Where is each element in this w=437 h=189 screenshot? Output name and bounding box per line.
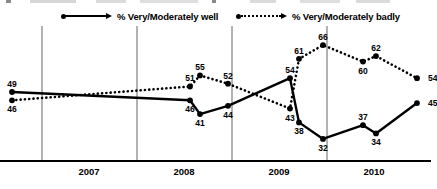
value-label: 49 <box>7 80 16 89</box>
data-point <box>296 56 302 62</box>
year-label-2007: 2007 <box>78 166 99 177</box>
legend-marker-dotted-line <box>235 11 287 22</box>
value-label: 51 <box>185 74 194 83</box>
legend-label-badly: % Very/Moderately badly <box>292 11 400 22</box>
data-point <box>9 97 15 103</box>
value-label: 60 <box>358 67 367 76</box>
legend-label-well: % Very/Moderately well <box>117 11 218 22</box>
value-label: 32 <box>318 144 327 153</box>
series-line-well <box>12 78 417 139</box>
x-axis-line <box>0 160 431 162</box>
legend-item-well: % Very/Moderately well <box>60 8 218 24</box>
value-label: 61 <box>294 47 303 56</box>
data-point <box>187 84 193 90</box>
value-label: 41 <box>195 119 204 128</box>
data-point <box>360 59 366 65</box>
data-point <box>373 131 379 137</box>
value-label: 66 <box>318 33 327 42</box>
value-label: 43 <box>285 114 294 123</box>
value-label: 62 <box>371 44 380 53</box>
data-point <box>225 103 231 109</box>
data-point <box>287 106 293 112</box>
value-label: 55 <box>195 63 204 72</box>
year-divider-lines <box>42 26 327 160</box>
value-label: 38 <box>294 127 303 136</box>
legend-item-badly: % Very/Moderately badly <box>235 8 400 24</box>
value-label: 46 <box>185 105 194 114</box>
data-point <box>296 119 302 125</box>
data-point <box>414 100 420 106</box>
data-point <box>320 42 326 48</box>
data-point <box>187 97 193 103</box>
cropped-title-artifact <box>0 0 431 4</box>
legend-marker-solid-line <box>60 11 112 22</box>
value-label: 37 <box>358 113 367 122</box>
value-label: 54 <box>428 74 437 83</box>
data-point <box>414 75 420 81</box>
year-label-2008: 2008 <box>173 166 194 177</box>
data-point <box>320 136 326 142</box>
plot-area <box>0 26 431 163</box>
x-axis-year-labels: 2007200820092010 <box>0 166 431 184</box>
value-label: 45 <box>428 99 437 108</box>
data-point <box>373 53 379 59</box>
data-point <box>197 111 203 117</box>
value-label: 44 <box>223 111 232 120</box>
series-layer <box>9 42 420 142</box>
data-point <box>360 122 366 128</box>
data-point <box>197 73 203 79</box>
year-label-2009: 2009 <box>268 166 289 177</box>
year-label-2010: 2010 <box>363 166 384 177</box>
chart-legend: % Very/Moderately well % Very/Moderately… <box>0 8 431 24</box>
value-label: 52 <box>223 72 232 81</box>
data-point <box>9 89 15 95</box>
value-label: 46 <box>7 105 16 114</box>
data-point <box>225 81 231 87</box>
value-label: 54 <box>285 66 294 75</box>
series-line-badly <box>12 45 417 109</box>
plot-svg <box>0 26 431 163</box>
data-point <box>287 75 293 81</box>
value-label: 34 <box>371 138 380 147</box>
